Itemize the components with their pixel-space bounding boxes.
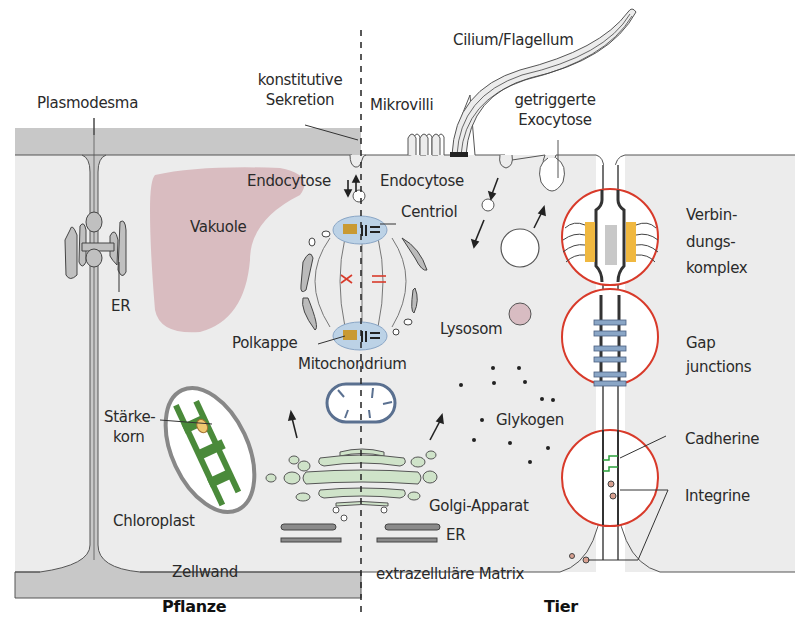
label-lysosom: Lysosom <box>440 320 502 339</box>
label-sekretion: Sekretion <box>245 91 355 110</box>
label-er-left: ER <box>111 297 130 316</box>
label-polkappe: Polkappe <box>232 334 297 353</box>
label-tier: Tier <box>544 597 578 616</box>
label-glykogen: Glykogen <box>496 411 564 430</box>
label-verbin: Verbin- <box>686 206 737 225</box>
label-pflanze: Pflanze <box>162 597 226 616</box>
label-centriol: Centriol <box>401 203 457 222</box>
label-mitochondrium: Mitochondrium <box>298 355 407 374</box>
label-golgi: Golgi-Apparat <box>429 497 529 516</box>
label-getriggerte: getriggerte <box>500 91 610 110</box>
label-er-right: ER <box>446 526 465 545</box>
label-cadherine: Cadherine <box>685 430 759 449</box>
label-konstitutive: konstitutive <box>245 71 355 90</box>
adhesion-circle <box>562 430 658 526</box>
label-ezm: extrazelluläre Matrix <box>376 565 524 584</box>
gap-junction <box>562 289 658 385</box>
label-zellwand: Zellwand <box>172 563 238 582</box>
lysosome <box>509 303 531 325</box>
label-integrine: Integrine <box>685 487 750 506</box>
label-cilium: Cilium/Flagellum <box>453 31 574 50</box>
label-plasmodesma: Plasmodesma <box>37 94 138 113</box>
label-vakuole: Vakuole <box>190 218 247 237</box>
label-komplex: komplex <box>686 259 747 278</box>
label-mikrovilli: Mikrovilli <box>370 96 433 115</box>
vesicle <box>501 229 539 267</box>
label-chloroplast: Chloroplast <box>113 512 195 531</box>
microvilli <box>408 134 440 155</box>
label-endocytose-right: Endocytose <box>380 172 464 191</box>
label-exocytose: Exocytose <box>500 111 610 130</box>
label-endocytose-left: Endocytose <box>247 172 331 191</box>
label-dungs: dungs- <box>686 233 735 252</box>
label-korn: korn <box>113 428 145 447</box>
label-junctions: junctions <box>686 358 751 377</box>
label-staerke: Stärke- <box>104 408 155 427</box>
label-gap: Gap <box>686 334 715 353</box>
